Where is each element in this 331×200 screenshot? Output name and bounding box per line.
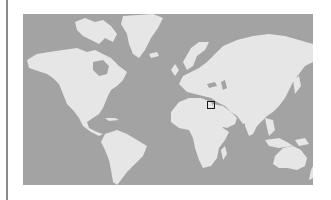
location-marker[interactable] bbox=[207, 101, 215, 109]
world-map-graphic bbox=[23, 14, 313, 185]
world-map[interactable] bbox=[23, 14, 313, 185]
vertical-divider bbox=[6, 0, 8, 200]
